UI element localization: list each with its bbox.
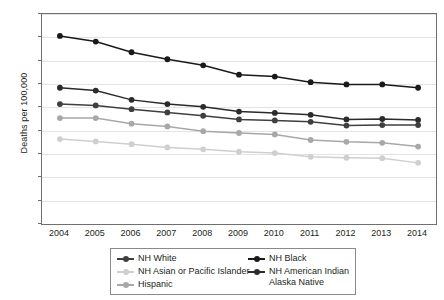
legend-label: NH American IndianAlaska Native: [269, 266, 349, 288]
data-point: [272, 150, 278, 156]
data-point: [272, 74, 278, 80]
series-nh-black: [57, 33, 421, 91]
data-point: [93, 88, 99, 94]
data-point: [415, 117, 421, 123]
legend-label: Hispanic: [138, 279, 173, 290]
data-point: [164, 124, 170, 130]
data-point: [415, 122, 421, 128]
data-point: [93, 103, 99, 109]
data-point: [344, 155, 350, 161]
x-axis-tick-label: 2014: [395, 228, 439, 238]
data-point: [129, 97, 135, 103]
data-point: [236, 149, 242, 155]
data-point: [129, 121, 135, 127]
data-point: [415, 85, 421, 91]
data-point: [200, 128, 206, 134]
data-point: [308, 112, 314, 118]
data-point: [272, 118, 278, 124]
data-point: [57, 136, 63, 142]
legend-label: NH Black: [269, 253, 307, 264]
data-point: [57, 101, 63, 107]
data-point: [200, 113, 206, 119]
data-point: [379, 116, 385, 122]
series-line: [60, 88, 418, 120]
plot-area: [41, 13, 437, 225]
data-point: [379, 140, 385, 146]
data-point: [344, 123, 350, 129]
data-point: [57, 115, 63, 121]
y-axis-title: Deaths per 100,000: [19, 43, 29, 183]
series-layer: [42, 14, 436, 224]
data-point: [164, 56, 170, 62]
data-point: [57, 33, 63, 39]
data-point: [379, 122, 385, 128]
data-point: [344, 117, 350, 123]
legend-item[interactable]: NH White: [117, 253, 177, 264]
data-point: [200, 146, 206, 152]
chart-legend: NH WhiteNH Asian or Pacific IslanderHisp…: [110, 248, 356, 295]
data-point: [308, 79, 314, 85]
data-point: [93, 139, 99, 145]
data-point: [272, 110, 278, 116]
legend-marker-icon: [248, 253, 265, 264]
data-point: [272, 132, 278, 138]
legend-item[interactable]: NH Asian or Pacific Islander: [117, 266, 250, 277]
chart-root: Deaths per 100,000 050100150200250300350…: [0, 0, 444, 300]
legend-label: NH White: [138, 253, 177, 264]
data-point: [308, 137, 314, 143]
data-point: [236, 117, 242, 123]
data-point: [200, 104, 206, 110]
data-point: [236, 130, 242, 136]
data-point: [236, 72, 242, 78]
series-line: [60, 36, 418, 88]
legend-item[interactable]: Hispanic: [117, 279, 173, 290]
data-point: [379, 82, 385, 88]
data-point: [129, 49, 135, 55]
data-point: [236, 109, 242, 115]
data-point: [415, 160, 421, 166]
data-point: [200, 62, 206, 68]
data-point: [164, 145, 170, 151]
legend-marker-icon: [117, 253, 134, 264]
legend-item[interactable]: NH American IndianAlaska Native: [248, 266, 349, 288]
data-point: [164, 110, 170, 116]
data-point: [308, 154, 314, 160]
data-point: [344, 82, 350, 88]
legend-marker-icon: [248, 266, 265, 277]
legend-label-line2: Alaska Native: [269, 277, 349, 288]
series-nh-asian-or-pacific-islander: [57, 136, 421, 166]
series-nh-white: [57, 101, 421, 128]
legend-item[interactable]: NH Black: [248, 253, 307, 264]
data-point: [308, 119, 314, 125]
legend-label: NH Asian or Pacific Islander: [138, 266, 250, 277]
data-point: [415, 144, 421, 150]
data-point: [93, 115, 99, 121]
legend-marker-icon: [117, 266, 134, 277]
data-point: [129, 106, 135, 112]
data-point: [379, 155, 385, 161]
data-point: [93, 39, 99, 45]
data-point: [164, 101, 170, 107]
data-point: [344, 139, 350, 145]
data-point: [57, 85, 63, 91]
legend-marker-icon: [117, 279, 134, 290]
data-point: [129, 141, 135, 147]
